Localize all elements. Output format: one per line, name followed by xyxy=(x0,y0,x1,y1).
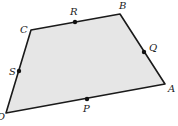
point-q-dot xyxy=(142,50,146,54)
label-c: C xyxy=(20,24,28,35)
quadrilateral-diagram: P Q R S A B C D xyxy=(0,0,178,126)
midpoint-r: R xyxy=(69,6,78,24)
label-p: P xyxy=(82,103,90,114)
label-r: R xyxy=(69,6,78,17)
point-s-dot xyxy=(17,69,21,73)
label-a: A xyxy=(167,83,175,94)
point-p-dot xyxy=(85,97,89,101)
label-q: Q xyxy=(149,42,157,53)
point-r-dot xyxy=(73,20,77,24)
label-d: D xyxy=(0,111,5,122)
label-b: B xyxy=(118,0,126,11)
label-s: S xyxy=(9,66,16,77)
midpoint-q: Q xyxy=(142,42,157,54)
